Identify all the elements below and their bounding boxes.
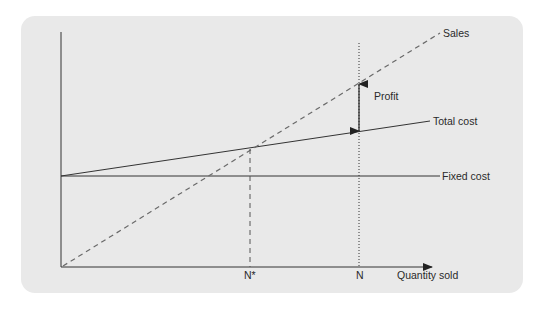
total-cost-line: [61, 121, 430, 176]
x-axis-label: Quantity sold: [397, 269, 458, 281]
sales-line: [63, 33, 440, 266]
break-even-chart: Sales Profit Total cost Fixed cost N* N …: [0, 0, 542, 310]
n-star-tick-label: N*: [244, 269, 256, 281]
fixed-cost-label: Fixed cost: [442, 170, 490, 182]
sales-label: Sales: [443, 27, 469, 39]
profit-label: Profit: [374, 90, 399, 102]
n-tick-label: N: [356, 269, 364, 281]
total-cost-label: Total cost: [433, 115, 477, 127]
